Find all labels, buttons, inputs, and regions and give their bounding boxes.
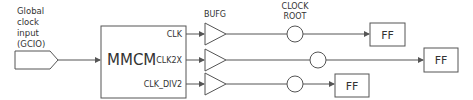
input-pad-shape: [15, 51, 58, 69]
ff-2-label: FF: [435, 54, 448, 67]
bufg-triangle-icon: [205, 23, 226, 45]
input-label-line-2: clock: [17, 17, 39, 27]
bufg-triangle-icon: [205, 49, 226, 71]
input-label-line-3: input: [17, 28, 40, 38]
clock-distribution-diagram: Global clock input (GCIO) MMCM CLK CLK2X…: [0, 0, 473, 100]
bufg-triangle-icon: [205, 73, 226, 95]
input-label-line-1: Global: [17, 6, 44, 16]
output-clk2x-label: CLK2X: [156, 56, 182, 65]
bufg-label: BUFG: [204, 10, 226, 19]
output-clk-div2-label: CLK_DIV2: [144, 80, 182, 89]
input-label-line-4: (GCIO): [17, 39, 45, 49]
output-clk-label: CLK: [167, 30, 183, 39]
ff-1-label: FF: [381, 29, 394, 42]
global-clock-input-label: Global clock input (GCIO): [17, 6, 45, 49]
clock-root-circle-icon: [287, 26, 303, 42]
clock-root-circle-icon: [287, 76, 303, 92]
ff-3-label: FF: [346, 80, 359, 93]
mmcm-label: MMCM: [107, 51, 156, 69]
clock-root-label-line-1: CLOCK: [282, 2, 310, 11]
clock-root-label-line-2: ROOT: [283, 12, 306, 21]
clock-root-circle-icon: [310, 52, 326, 68]
